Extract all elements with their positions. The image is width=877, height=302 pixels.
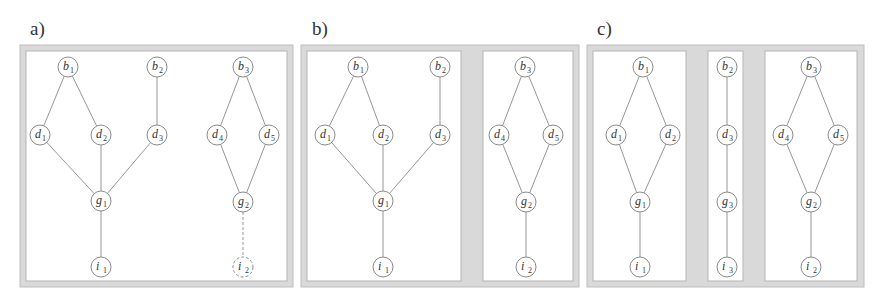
node-subscript: 1 — [103, 200, 107, 209]
node-d5: d5 — [828, 125, 848, 145]
node-letter: g — [722, 194, 728, 208]
node-letter: g — [378, 193, 384, 207]
panel-a-label: a) — [30, 18, 45, 40]
node-g1: g1 — [91, 191, 111, 211]
node-subscript: 2 — [813, 201, 817, 210]
node-subscript: 1 — [642, 201, 646, 210]
node-letter: i — [96, 259, 99, 273]
node-g1: g1 — [630, 192, 650, 212]
node-letter: b — [152, 59, 158, 73]
node-g2: g2 — [233, 192, 253, 212]
node-letter: d — [722, 127, 729, 141]
node-letter: d — [152, 127, 159, 141]
node-subscript: 3 — [442, 134, 446, 143]
node-d1: d1 — [315, 125, 335, 145]
node-subscript: 3 — [159, 134, 163, 143]
node-g2: g2 — [516, 192, 536, 212]
node-subscript: 3 — [729, 201, 733, 210]
node-circle — [801, 257, 821, 277]
node-subscript: 4 — [219, 134, 223, 143]
node-letter: b — [520, 59, 526, 73]
node-letter: i — [378, 259, 381, 273]
node-subscript: 2 — [103, 134, 107, 143]
node-letter: d — [35, 127, 42, 141]
node-letter: b — [353, 59, 359, 73]
node-subscript: 1 — [42, 134, 46, 143]
node-b3: b3 — [233, 57, 253, 77]
node-letter: b — [722, 59, 728, 73]
bayesian-network-figure: a) b1b2b3d1d2d3d4d5g1g2i1i2 b) b1b2b3d1d… — [0, 0, 877, 302]
node-circle — [373, 257, 393, 277]
node-b3: b3 — [515, 57, 535, 77]
node-letter: g — [806, 194, 812, 208]
node-letter: g — [635, 194, 641, 208]
node-subscript: 1 — [618, 134, 622, 143]
node-g1: g1 — [373, 191, 393, 211]
node-subscript: 2 — [672, 134, 676, 143]
node-subscript: 2 — [528, 266, 532, 275]
node-subscript: 2 — [813, 266, 817, 275]
node-subscript: 2 — [729, 66, 733, 75]
node-letter: d — [778, 127, 785, 141]
node-letter: b — [435, 59, 441, 73]
node-d2: d2 — [91, 125, 111, 145]
node-letter: d — [665, 127, 672, 141]
node-i3: i3 — [717, 257, 737, 277]
node-circle — [717, 257, 737, 277]
node-subscript: 1 — [360, 66, 364, 75]
node-subscript: 2 — [385, 134, 389, 143]
node-subscript: 1 — [385, 266, 389, 275]
panel-a: a) b1b2b3d1d2d3d4d5g1g2i1i2 — [20, 18, 293, 287]
node-i1: i1 — [630, 257, 650, 277]
node-subscript: 5 — [840, 134, 844, 143]
node-subscript: 3 — [813, 66, 817, 75]
node-subscript: 5 — [555, 134, 559, 143]
node-letter: i — [521, 259, 524, 273]
node-subscript: 4 — [501, 134, 505, 143]
node-subscript: 3 — [729, 134, 733, 143]
node-circle — [516, 257, 536, 277]
node-letter: b — [238, 59, 244, 73]
node-letter: d — [548, 127, 555, 141]
node-subscript: 1 — [385, 200, 389, 209]
node-d4: d4 — [207, 125, 227, 145]
panel-b: b) b1b2b3d1d2d3d4d5g1g2i1i2 — [301, 18, 579, 287]
panel-c-label: c) — [597, 18, 612, 40]
node-b2: b2 — [430, 57, 450, 77]
node-d1: d1 — [606, 125, 626, 145]
node-letter: d — [494, 127, 501, 141]
node-letter: d — [212, 127, 219, 141]
node-letter: i — [806, 259, 809, 273]
node-letter: i — [722, 259, 725, 273]
node-circle — [233, 257, 253, 277]
node-d1: d1 — [30, 125, 50, 145]
node-d3: d3 — [430, 125, 450, 145]
panel-a-subgraph-1 — [26, 51, 287, 281]
node-subscript: 3 — [729, 266, 733, 275]
node-subscript: 2 — [442, 66, 446, 75]
node-letter: d — [378, 127, 385, 141]
panel-b-label: b) — [312, 18, 328, 40]
node-circle — [630, 257, 650, 277]
node-d4: d4 — [773, 125, 793, 145]
panel-b-subgraph-1 — [307, 51, 461, 281]
node-d5: d5 — [259, 125, 279, 145]
node-letter: d — [320, 127, 327, 141]
node-subscript: 1 — [70, 66, 74, 75]
node-subscript: 1 — [103, 266, 107, 275]
panel-c: c) b1b2b3d1d2d3d4d5g1g3g2i1i3i2 — [587, 18, 864, 287]
node-letter: d — [96, 127, 103, 141]
node-d3: d3 — [147, 125, 167, 145]
node-letter: i — [635, 259, 638, 273]
node-b1: b1 — [633, 57, 653, 77]
node-subscript: 3 — [245, 66, 249, 75]
node-b1: b1 — [58, 57, 78, 77]
node-letter: d — [264, 127, 271, 141]
panel-b-subgraph-2 — [483, 51, 573, 281]
node-letter: b — [638, 59, 644, 73]
node-b3: b3 — [801, 57, 821, 77]
node-i2: i2 — [801, 257, 821, 277]
node-d3: d3 — [717, 125, 737, 145]
node-d2: d2 — [373, 125, 393, 145]
node-subscript: 2 — [528, 201, 532, 210]
